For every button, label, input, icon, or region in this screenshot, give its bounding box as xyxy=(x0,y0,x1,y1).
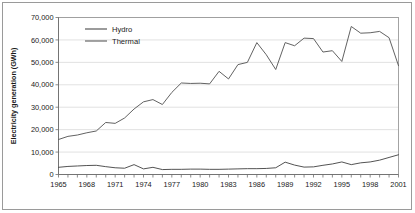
gridlines-group xyxy=(59,18,399,153)
y-tick-label: 10,000 xyxy=(31,148,54,157)
x-tick-label: 1968 xyxy=(79,180,95,189)
y-tick-labels: 010,00020,00030,00040,00050,00060,00070,… xyxy=(31,13,54,179)
data-series-group xyxy=(59,26,399,169)
x-tick-label: 2001 xyxy=(390,180,406,189)
legend-label-hydro: Hydro xyxy=(112,25,132,34)
x-tick-label: 1986 xyxy=(249,180,265,189)
chart-figure: 010,00020,00030,00040,00050,00060,00070,… xyxy=(0,0,415,213)
x-tick-label: 1983 xyxy=(220,180,236,189)
x-tick-label: 1995 xyxy=(334,180,350,189)
x-tick-label: 1977 xyxy=(164,180,180,189)
legend-label-thermal: Thermal xyxy=(112,37,140,46)
series-line-hydro xyxy=(59,155,399,170)
series-line-thermal xyxy=(59,26,399,139)
y-tick-label: 0 xyxy=(49,170,53,179)
y-tick-label: 60,000 xyxy=(31,36,54,45)
y-axis-title: Electricity generation (GWh) xyxy=(9,47,18,144)
line-chart: 010,00020,00030,00040,00050,00060,00070,… xyxy=(0,0,415,213)
y-axis-title-text: Electricity generation (GWh) xyxy=(9,47,18,144)
x-tick-label: 1992 xyxy=(305,180,321,189)
chart-legend: HydroThermal xyxy=(85,25,140,46)
y-tick-label: 20,000 xyxy=(31,125,54,134)
x-tick-labels: 1965196819711974197719801983198619891992… xyxy=(50,180,406,189)
x-tick-label: 1989 xyxy=(277,180,293,189)
y-tick-label: 40,000 xyxy=(31,80,54,89)
x-tick-label: 1980 xyxy=(192,180,208,189)
x-tick-label: 1971 xyxy=(107,180,123,189)
x-tick-label: 1974 xyxy=(135,180,151,189)
x-tick-label: 1998 xyxy=(362,180,378,189)
y-tick-label: 30,000 xyxy=(31,103,54,112)
y-tick-label: 50,000 xyxy=(31,58,54,67)
y-tick-label: 70,000 xyxy=(31,13,54,22)
x-tick-label: 1965 xyxy=(50,180,66,189)
